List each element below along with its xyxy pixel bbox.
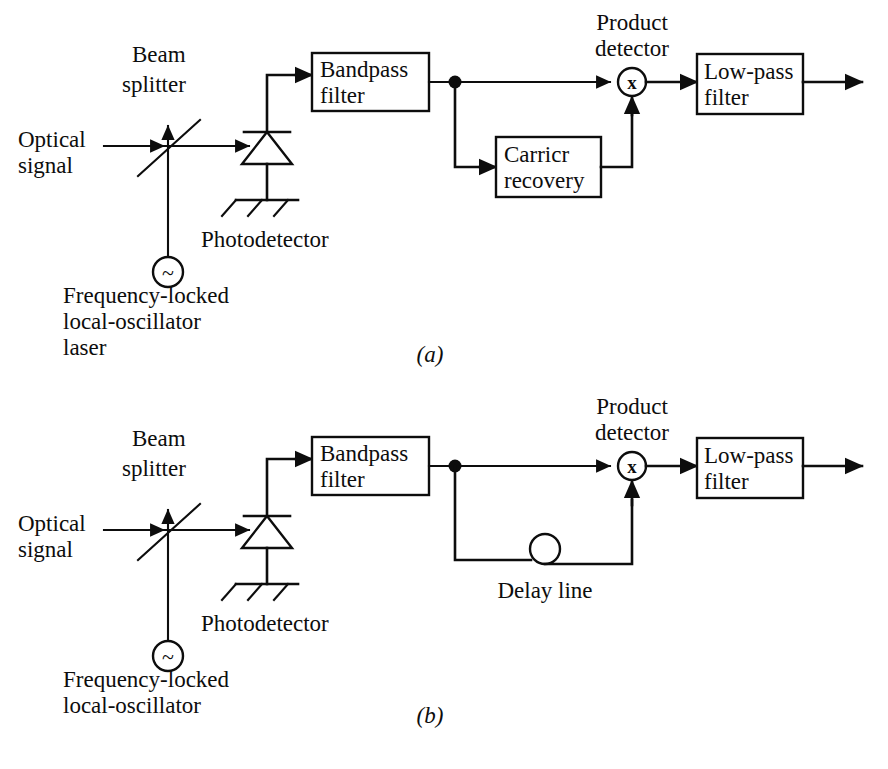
low-pass-filter-label-line1-b: Low-pass <box>704 443 793 468</box>
photodetector-label-a: Photodetector <box>201 227 329 252</box>
panel-a: ~ Bandpass filter <box>18 10 862 367</box>
photodiode-top-lead-a <box>267 75 296 132</box>
optical-signal-label-line1-a: Optical <box>18 127 86 152</box>
product-detector-glyph-a: x <box>627 72 637 93</box>
local-oscillator-glyph-a: ~ <box>162 260 174 285</box>
ground-hatch-1-b <box>222 584 236 600</box>
product-detector-glyph-b: x <box>627 456 637 477</box>
ground-hatch-3-a <box>274 200 288 216</box>
local-oscillator-label-line3-a: laser <box>63 335 107 360</box>
panel-label-a: (a) <box>417 342 444 367</box>
bandpass-filter-label-line2-a: filter <box>320 83 365 108</box>
panel-label-b: (b) <box>417 703 444 728</box>
local-oscillator-label-line2-b: local-oscillator <box>63 693 201 718</box>
ground-hatch-1-a <box>222 200 236 216</box>
optical-signal-label-line2-b: signal <box>18 537 73 562</box>
ground-hatch-3-b <box>274 584 288 600</box>
figure-root: ~ Bandpass filter <box>0 0 888 769</box>
product-detector-label-line1-a: Product <box>596 10 668 35</box>
optical-signal-label-line2-a: signal <box>18 153 73 178</box>
photodiode-triangle-b <box>242 516 292 548</box>
bandpass-filter-label-line1-a: Bandpass <box>320 57 408 82</box>
beam-splitter-label-line2-a: splitter <box>122 72 186 97</box>
local-oscillator-glyph-b: ~ <box>162 644 174 669</box>
low-pass-filter-label-line2-b: filter <box>704 469 749 494</box>
ground-hatch-2-b <box>248 584 262 600</box>
delay-line-label-b: Delay line <box>497 578 592 603</box>
low-pass-filter-label-line1-a: Low-pass <box>704 59 793 84</box>
junction-to-carrier-recovery-wire-a <box>455 82 480 167</box>
optical-signal-label-line1-b: Optical <box>18 511 86 536</box>
delay-line-input-wire-b <box>455 466 531 560</box>
local-oscillator-label-line1-b: Frequency-locked <box>63 667 230 692</box>
bandpass-filter-label-line1-b: Bandpass <box>320 441 408 466</box>
photodiode-top-lead-b <box>267 459 296 516</box>
photodetector-label-b: Photodetector <box>201 611 329 636</box>
panel-b: ~ Bandpass filter x Lo <box>18 394 862 728</box>
beam-splitter-label-line2-b: splitter <box>122 456 186 481</box>
carrier-recovery-to-product-wire-a <box>601 110 632 167</box>
carrier-recovery-label-line2-a: recovery <box>504 168 585 193</box>
low-pass-filter-label-line2-a: filter <box>704 85 749 110</box>
product-detector-label-line2-b: detector <box>595 420 669 445</box>
photodiode-triangle-a <box>242 132 292 164</box>
beam-splitter-label-line1-a: Beam <box>132 42 186 67</box>
product-detector-label-line1-b: Product <box>596 394 668 419</box>
beam-splitter-label-line1-b: Beam <box>132 426 186 451</box>
local-oscillator-label-line2-a: local-oscillator <box>63 309 201 334</box>
carrier-recovery-label-line1-a: Carricr <box>504 142 569 167</box>
product-detector-label-line2-a: detector <box>595 36 669 61</box>
delay-line-loop-b <box>530 534 560 564</box>
local-oscillator-label-line1-a: Frequency-locked <box>63 283 230 308</box>
block-diagram-canvas: ~ Bandpass filter <box>0 0 888 769</box>
bandpass-filter-label-line2-b: filter <box>320 467 365 492</box>
ground-hatch-2-a <box>248 200 262 216</box>
